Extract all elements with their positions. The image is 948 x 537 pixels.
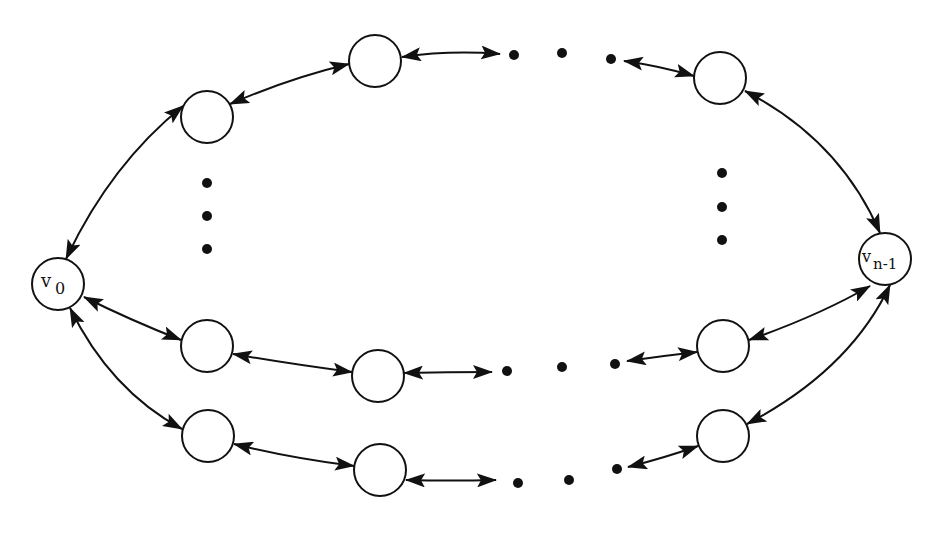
dot xyxy=(717,235,727,245)
dot xyxy=(557,48,567,58)
edge-ellipsis-midright xyxy=(627,352,697,361)
edge-topmid-ellipsis xyxy=(402,53,500,57)
ellipsis-mid xyxy=(502,359,620,376)
dot xyxy=(513,478,523,488)
node-mid-center xyxy=(352,350,404,402)
edge-v0-botleft xyxy=(70,308,182,429)
node-bot-left xyxy=(182,410,234,462)
dot xyxy=(564,475,574,485)
dot xyxy=(202,178,212,188)
edge-midleft-midcenter xyxy=(233,354,352,372)
dot xyxy=(502,366,512,376)
node-top-mid xyxy=(349,35,401,87)
dot xyxy=(610,359,620,369)
edge-ellipsis-botright xyxy=(628,446,698,467)
ring-network-diagram: v 0 v n-1 xyxy=(0,0,948,537)
node-v0: v 0 xyxy=(32,258,84,310)
edge-topright-vn1 xyxy=(745,91,880,233)
edge-v0-topleft xyxy=(66,106,183,259)
node-top-left xyxy=(181,91,233,143)
node-vn-1-label: v xyxy=(861,247,871,266)
nodes: v 0 v n-1 xyxy=(32,35,911,496)
dot xyxy=(606,54,616,64)
edge-topleft-topmid xyxy=(230,64,349,104)
ellipsis-top xyxy=(509,48,616,64)
node-vn-1-subscript: n-1 xyxy=(873,255,897,273)
edge-ellipsis-topright xyxy=(624,61,694,76)
ellipsis-right-vertical xyxy=(717,168,727,245)
node-mid-left xyxy=(181,320,233,372)
dot xyxy=(202,244,212,254)
node-vn-1: v n-1 xyxy=(859,233,911,285)
dot xyxy=(202,211,212,221)
dot xyxy=(557,362,567,372)
dot xyxy=(717,202,727,212)
node-v0-label: v xyxy=(40,270,52,291)
node-v0-subscript: 0 xyxy=(55,279,65,298)
edge-botleft-botcenter xyxy=(234,444,354,466)
node-mid-right xyxy=(697,320,749,372)
edge-midright-vn1 xyxy=(749,286,870,340)
edge-botcenter-ellipsis xyxy=(406,480,496,481)
dot xyxy=(717,168,727,178)
node-bot-right xyxy=(697,410,749,462)
edge-v0-midleft xyxy=(84,297,181,340)
node-bot-center xyxy=(354,444,406,496)
node-top-right xyxy=(694,52,746,104)
edge-midcenter-ellipsis xyxy=(404,372,492,373)
edge-botright-vn1 xyxy=(747,285,890,424)
ellipsis-bot xyxy=(513,464,622,488)
dot xyxy=(612,464,622,474)
dot xyxy=(509,50,519,60)
ellipsis-left-vertical xyxy=(202,178,212,254)
